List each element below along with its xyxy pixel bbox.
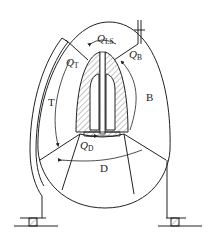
left-duct [30,38,62,218]
region-label-b: B [146,91,153,103]
svg-text:Q: Q [66,56,74,68]
svg-text:Q: Q [97,32,105,44]
svg-text:Q: Q [129,48,137,60]
flow-label-ls: Q LS [97,32,114,46]
flow-label-t: Q T [66,56,79,70]
flow-label-b: Q B [129,48,142,62]
svg-text:D: D [88,144,94,153]
svg-text:T: T [74,61,79,70]
svg-text:Q: Q [80,139,88,151]
svg-text:B: B [137,53,142,62]
machine-cross-section-diagram: T B D Q LS Q T Q B Q D [0,0,218,241]
core-slot-right [106,74,115,130]
core-slot-left [90,74,99,130]
svg-text:LS: LS [105,37,114,46]
flow-t [55,60,70,145]
flow-label-d: Q D [80,139,94,153]
central-shaft [100,52,105,134]
region-label-d: D [100,162,108,174]
region-label-t: T [48,96,55,108]
